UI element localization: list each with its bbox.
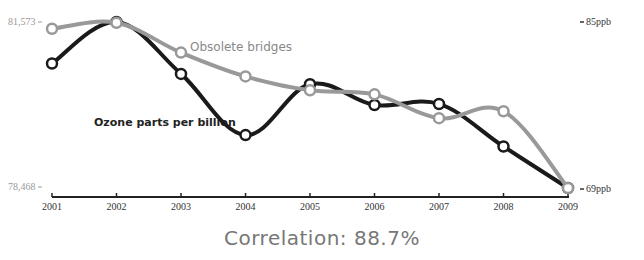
left-axis-max-label: 81,573: [8, 16, 36, 27]
series-ozone: [47, 17, 573, 193]
series-label-ozone: Ozone parts per billion: [94, 116, 236, 129]
data-point: [499, 106, 509, 116]
data-point: [241, 130, 251, 140]
x-tick-label: 2002: [107, 201, 127, 212]
data-point: [305, 85, 315, 95]
series-obsolete-bridges: [47, 18, 573, 193]
series-label-obsolete-bridges: Obsolete bridges: [190, 40, 292, 54]
x-tick-label: 2003: [171, 201, 191, 212]
x-tick-label: 2006: [365, 201, 385, 212]
data-point: [563, 183, 573, 193]
chart-area: 200120022003200420052006200720082009 81,…: [0, 0, 644, 226]
x-tick-label: 2005: [300, 201, 320, 212]
correlation-label: Correlation: 88.7%: [0, 226, 644, 250]
data-point: [176, 48, 186, 58]
x-axis-ticks: 200120022003200420052006200720082009: [42, 193, 578, 212]
data-point: [176, 69, 186, 79]
x-tick-label: 2001: [42, 201, 62, 212]
data-point: [434, 99, 444, 109]
series-line: [52, 22, 568, 188]
data-point: [241, 71, 251, 81]
data-point: [47, 24, 57, 34]
right-axis-max-label: 85ppb: [586, 16, 611, 27]
x-tick-label: 2007: [429, 201, 449, 212]
data-point: [47, 59, 57, 69]
series-line: [52, 22, 568, 188]
data-point: [370, 100, 380, 110]
data-point: [370, 89, 380, 99]
data-point: [434, 113, 444, 123]
left-axis-min-label: 78,468: [8, 181, 36, 192]
data-point: [499, 142, 509, 152]
x-tick-label: 2009: [558, 201, 578, 212]
data-point: [112, 18, 122, 28]
x-tick-label: 2004: [236, 201, 256, 212]
right-axis-min-label: 69ppb: [586, 183, 611, 194]
x-tick-label: 2008: [494, 201, 514, 212]
